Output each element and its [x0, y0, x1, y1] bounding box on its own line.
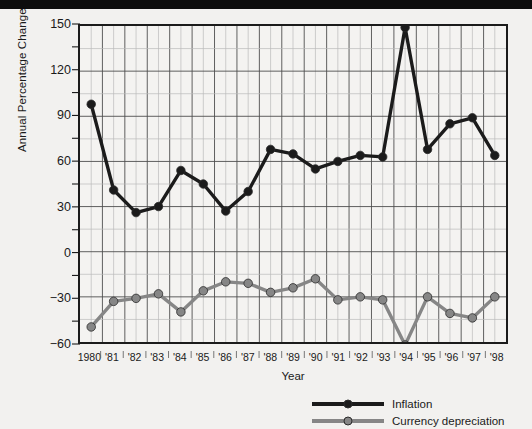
legend-marker-icon	[344, 399, 353, 408]
legend-item: Inflation	[312, 395, 505, 412]
plot-wrapper: 1501209060300−30−60 1980'81'82'83'84'85'…	[78, 24, 508, 344]
chart-figure: 1501209060300−30−60 1980'81'82'83'84'85'…	[0, 9, 532, 429]
legend-swatch	[312, 397, 384, 411]
legend-item: Currency depreciation	[312, 412, 505, 429]
x-tick-marks	[78, 344, 508, 360]
scan-artifact-strip	[0, 0, 532, 9]
legend-marker-icon	[344, 416, 353, 425]
y-axis-title: Annual Percentage Change	[16, 0, 28, 152]
y-tick-label: −30	[50, 291, 71, 305]
legend-label: Currency depreciation	[392, 415, 505, 427]
y-tick-label: 0	[64, 246, 71, 260]
y-axis-ticks: 1501209060300−30−60	[78, 24, 508, 344]
y-tick-label: 150	[50, 17, 71, 31]
legend-label: Inflation	[392, 398, 432, 410]
y-tick-label: 30	[57, 200, 71, 214]
x-axis-title: Year	[281, 370, 304, 382]
chart-legend: InflationCurrency depreciation	[312, 395, 505, 429]
y-tick-marks	[71, 24, 80, 344]
legend-swatch	[312, 414, 384, 428]
y-tick-label: −60	[50, 337, 71, 351]
y-tick-label: 120	[50, 63, 71, 77]
y-tick-label: 90	[57, 108, 71, 122]
y-tick-label: 60	[57, 154, 71, 168]
